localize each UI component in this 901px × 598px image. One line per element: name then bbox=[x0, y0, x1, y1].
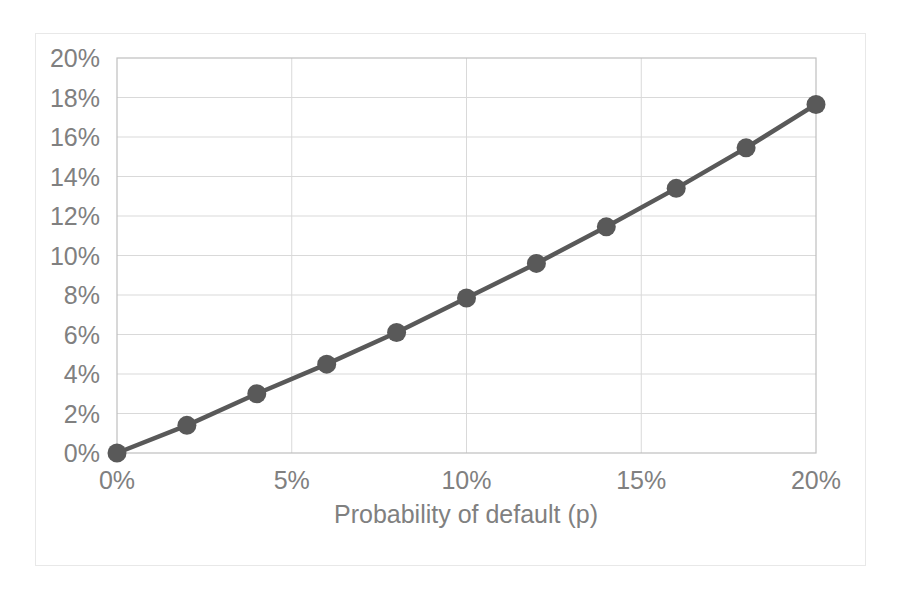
y-axis-tick-label: 2% bbox=[64, 400, 100, 428]
data-point-marker bbox=[737, 138, 756, 157]
data-point-marker bbox=[667, 179, 686, 198]
y-axis-tick-label: 0% bbox=[64, 439, 100, 467]
x-axis-tick-label: 10% bbox=[441, 466, 491, 494]
x-axis-title: Probability of default (p) bbox=[334, 500, 598, 528]
y-axis-tick-label: 8% bbox=[64, 281, 100, 309]
x-axis-tick-label: 5% bbox=[274, 466, 310, 494]
x-axis-tick-labels: 0%5%10%15%20% bbox=[99, 466, 841, 494]
data-point-marker bbox=[108, 444, 127, 463]
y-axis-tick-label: 16% bbox=[50, 123, 100, 151]
x-axis-tick-label: 0% bbox=[99, 466, 135, 494]
chart-container: 0%2%4%6%8%10%12%14%16%18%20% 0%5%10%15%2… bbox=[0, 0, 901, 598]
data-point-marker bbox=[177, 416, 196, 435]
y-axis-tick-label: 10% bbox=[50, 242, 100, 270]
line-chart-plot: 0%2%4%6%8%10%12%14%16%18%20% 0%5%10%15%2… bbox=[0, 0, 901, 598]
y-axis-tick-labels: 0%2%4%6%8%10%12%14%16%18%20% bbox=[50, 44, 100, 467]
y-axis-tick-label: 20% bbox=[50, 44, 100, 72]
x-axis-tick-label: 15% bbox=[616, 466, 666, 494]
y-axis-tick-label: 14% bbox=[50, 163, 100, 191]
y-axis-tick-label: 18% bbox=[50, 84, 100, 112]
y-axis-tick-label: 4% bbox=[64, 360, 100, 388]
x-axis-tick-label: 20% bbox=[791, 466, 841, 494]
data-point-marker bbox=[317, 355, 336, 374]
data-point-marker bbox=[597, 217, 616, 236]
data-point-marker bbox=[807, 95, 826, 114]
y-axis-tick-label: 12% bbox=[50, 202, 100, 230]
data-point-marker bbox=[247, 384, 266, 403]
data-point-marker bbox=[387, 323, 406, 342]
data-point-marker bbox=[457, 288, 476, 307]
y-axis-tick-label: 6% bbox=[64, 321, 100, 349]
data-point-marker bbox=[527, 254, 546, 273]
